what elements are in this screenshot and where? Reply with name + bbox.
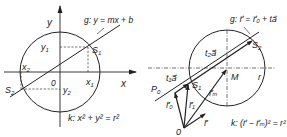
right-diagram: g: r⃗ = r⃗₀ + ta⃗ S2 S1 P0 t₂a⃗ t₁a⃗ M r… (148, 14, 287, 137)
radius-label: r (258, 72, 262, 82)
line-g-vector (155, 32, 259, 101)
center-m-label: M (231, 72, 239, 82)
origin-vector-label: 0 (176, 127, 181, 137)
y1-label: y1 (40, 42, 49, 53)
vector-r1 (184, 85, 188, 128)
s1-label: S1 (92, 45, 101, 56)
line-g-vector-label: g: r⃗ = r⃗₀ + ta⃗ (230, 14, 277, 24)
x1-label: x1 (85, 77, 94, 88)
line-g-label: g: y = mx + b (84, 15, 133, 25)
label-leader-right (244, 27, 250, 34)
r-label: r⃗ (204, 119, 209, 128)
x2-label: x2 (21, 62, 31, 73)
x-axis-label: x (120, 78, 127, 89)
origin-label: 0 (51, 78, 56, 88)
s2-vector-label: S2 (252, 40, 262, 51)
label-leader (97, 28, 104, 34)
diagram-canvas: y x 0 g: y = mx + b S1 S2 y1 x1 x2 y2 k:… (0, 0, 287, 137)
vector-r (184, 114, 205, 128)
s1-vector-label: S1 (192, 80, 201, 91)
y2-label: y2 (62, 85, 72, 96)
vector-t1a (175, 84, 188, 93)
r0-label: r⃗₀ (166, 101, 173, 110)
p0-label: P0 (151, 84, 161, 95)
y-axis-label: y (46, 17, 53, 28)
t2a-label: t₂a⃗ (205, 48, 217, 58)
rm-label: r⃗ₘ (209, 89, 217, 98)
left-diagram: y x 0 g: y = mx + b S1 S2 y1 x1 x2 y2 k:… (4, 6, 136, 127)
circle-k-vector-label: k: (r⃗ − r⃗ₘ)² = r² (231, 118, 287, 128)
s2-label: S2 (5, 85, 15, 96)
vector-r0 (175, 93, 184, 128)
r1-label: r⃗₁ (189, 101, 195, 110)
circle-k-label: k: x² + y² = r² (68, 113, 120, 123)
t1a-label: t₁a⃗ (166, 73, 177, 83)
